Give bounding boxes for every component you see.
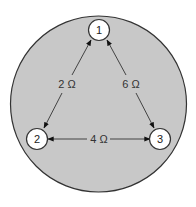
node-1-label: 1 bbox=[96, 24, 102, 36]
node-2-label: 2 bbox=[34, 133, 40, 145]
node-3-label: 3 bbox=[157, 133, 163, 145]
edge-label-6-ohm: 6 Ω bbox=[122, 78, 139, 90]
edge-label-2-ohm: 2 Ω bbox=[58, 78, 75, 90]
node-1: 1 bbox=[89, 20, 110, 41]
outer-boundary-circle bbox=[11, 16, 187, 192]
node-3: 3 bbox=[150, 129, 171, 150]
resistor-network-diagram: 2 Ω 6 Ω 4 Ω 1 2 3 bbox=[0, 0, 196, 207]
node-2: 2 bbox=[27, 129, 48, 150]
edge-label-4-ohm: 4 Ω bbox=[90, 133, 107, 145]
